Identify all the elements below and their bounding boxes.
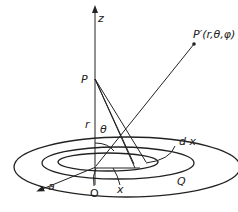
origin-label: O — [90, 187, 99, 200]
line-P-to-ring-a — [95, 79, 134, 164]
dx-label: d x — [179, 135, 196, 148]
point-P-prime — [192, 42, 196, 46]
q-label: Q — [177, 175, 186, 188]
r-label: r — [85, 118, 91, 131]
theta-label: θ — [100, 123, 107, 136]
p-prime-label: P′(r,θ,φ) — [193, 28, 235, 41]
x-label: x — [116, 183, 124, 196]
line-P-to-outer-ring — [95, 79, 146, 162]
annulus-diagram: z P′(r,θ,φ) P r θ d x O x a Q — [0, 0, 238, 212]
z-label: z — [97, 12, 104, 25]
p-label: P — [81, 73, 88, 86]
a-label: a — [48, 180, 55, 193]
